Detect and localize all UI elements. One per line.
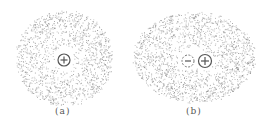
- negative-charge-icon-b: [182, 55, 194, 67]
- electron-cloud-diagram: [0, 0, 259, 126]
- positive-charge-icon-a: [58, 54, 70, 66]
- panel-label-a: (a): [55, 106, 70, 116]
- panel-label-b: (b): [186, 106, 202, 116]
- positive-charge-icon-b: [199, 55, 212, 68]
- electron-cloud-b: [133, 12, 256, 104]
